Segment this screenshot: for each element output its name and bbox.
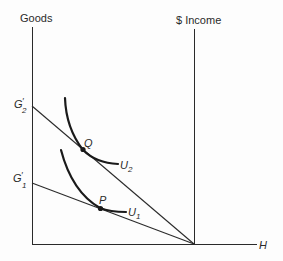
g2-prime-label: G ′ 2 (14, 96, 27, 115)
point-p-label: P (99, 194, 107, 206)
indifference-curve-u1 (61, 150, 126, 212)
goods-axis-label: Goods (20, 12, 53, 24)
u2-subscript: 2 (127, 165, 133, 174)
diagram-svg: Goods $ Income H G ′ 2 G ′ 1 Q P U 2 U 1 (0, 0, 283, 261)
u2-letter: U (120, 159, 128, 171)
point-q-label: Q (84, 137, 93, 149)
indifference-curve-u2 (65, 98, 118, 164)
h-axis-label: H (259, 239, 267, 251)
income-axis-label: $ Income (176, 14, 221, 26)
u1-label: U 1 (128, 206, 140, 221)
g1-prime-mark: ′ (21, 170, 23, 180)
g1-prime-label: G ′ 1 (13, 170, 26, 190)
u1-letter: U (128, 206, 136, 218)
g1-subscript: 1 (22, 181, 26, 190)
budget-line-g2 (32, 106, 194, 244)
u1-subscript: 1 (136, 212, 140, 221)
u2-label: U 2 (120, 159, 133, 174)
indifference-curve-diagram: Goods $ Income H G ′ 2 G ′ 1 Q P U 2 U 1 (0, 0, 283, 261)
budget-line-g1 (32, 183, 194, 244)
g2-prime-mark: ′ (22, 96, 24, 106)
g2-subscript: 2 (21, 106, 27, 115)
point-p-dot (98, 206, 103, 211)
